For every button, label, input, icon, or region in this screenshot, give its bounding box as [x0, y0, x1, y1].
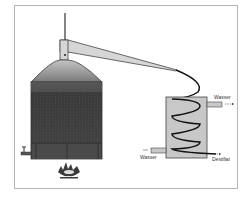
drain-tap	[21, 147, 31, 155]
burner-flame	[58, 162, 80, 179]
distillate-label: Destillat	[212, 156, 230, 162]
water-inlet	[151, 148, 166, 153]
vapor-pipe	[172, 70, 199, 99]
distillation-diagram: Wasser Wasser Destillat	[0, 0, 248, 206]
still-head	[60, 40, 68, 60]
water-in-label: Wasser	[140, 154, 157, 160]
boiler-dome	[31, 60, 102, 82]
water-out-label: Wasser	[214, 94, 231, 100]
water-outlet	[207, 102, 222, 107]
